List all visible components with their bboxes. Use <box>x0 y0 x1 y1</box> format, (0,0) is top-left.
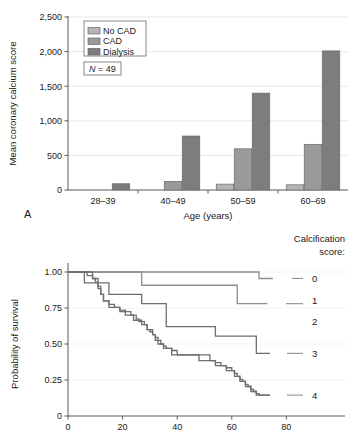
panel-a-bar <box>164 181 182 190</box>
panel-a-legend-swatch <box>88 49 100 56</box>
panel-a-letter: A <box>24 208 32 220</box>
panel-a-ytick-label: 1,500 <box>39 82 62 92</box>
panel-b-curve-label: 0 <box>312 273 317 284</box>
panel-a-ytick-label: 2,000 <box>39 47 62 57</box>
panel-a-ytick-label: 0 <box>57 185 62 195</box>
panel-a-xtick-label: 50–59 <box>230 196 255 206</box>
panel-b-ytick-label: 0.25 <box>44 375 62 385</box>
panel-b-xtick-label: 40 <box>172 422 182 432</box>
panel-a-bar <box>112 184 130 190</box>
panel-a-bar <box>182 136 200 190</box>
panel-b-legend-title-line2: score: <box>319 246 345 257</box>
panel-a-n-label: N = 49 <box>89 64 116 74</box>
panel-b-ytick-label: 0.75 <box>44 303 62 313</box>
panel-b-curve-label: 1 <box>312 295 317 306</box>
panel-b-survival-curve <box>68 272 273 278</box>
panel-a-bar <box>304 144 322 190</box>
panel-a-legend-label: CAD <box>103 36 123 46</box>
panel-b-ytick-label: 0.50 <box>44 339 62 349</box>
panel-b-ytick-label: 1.00 <box>44 267 62 277</box>
panel-a-ytick-label: 500 <box>47 151 62 161</box>
panel-b-survival-curve <box>68 272 270 395</box>
panel-a-bar <box>234 149 252 190</box>
panel-a-xtick-label: 40–49 <box>160 196 185 206</box>
panel-b-xtick-label: 80 <box>281 422 291 432</box>
panel-b-curve-label: 4 <box>312 390 317 401</box>
panel-a-x-axis-title: Age (years) <box>183 210 232 221</box>
panel-a-xtick-label: 28–39 <box>90 196 115 206</box>
panel-a-bar <box>252 93 270 190</box>
panel-b-xtick-label: 60 <box>227 422 237 432</box>
panel-b-legend-title-line1: Calcification <box>294 233 345 244</box>
panel-a-legend-swatch <box>88 28 100 35</box>
figure-container: 05001,0001,5002,0002,50028–3940–4950–596… <box>0 0 354 444</box>
panel-b-curve-label: 2 <box>312 316 317 327</box>
panel-a-xtick-label: 60–69 <box>300 196 325 206</box>
panel-a-bar <box>322 51 340 190</box>
panel-a-ytick-label: 2,500 <box>39 12 62 22</box>
panel-b-curve-label: 3 <box>312 348 317 359</box>
panel-b-ytick-label: 0 <box>57 411 62 421</box>
panel-a-legend-swatch <box>88 38 100 45</box>
panel-a-ytick-label: 1,000 <box>39 116 62 126</box>
panel-b-xtick-label: 0 <box>65 422 70 432</box>
panel-a-legend-label: No CAD <box>103 26 137 36</box>
panel-a-bar <box>216 184 234 190</box>
panel-a-bar <box>286 185 304 190</box>
panel-b-survival-chart: 00.250.500.751.00020406080Probability of… <box>0 230 354 444</box>
panel-b-y-axis-title: Probability of survival <box>9 299 20 389</box>
panel-b-xtick-label: 20 <box>118 422 128 432</box>
panel-a-y-axis-title: Mean coronary calcium score <box>7 41 18 165</box>
panel-a-legend-label: Dialysis <box>103 47 135 57</box>
panel-a-bar-chart: 05001,0001,5002,0002,50028–3940–4950–596… <box>0 0 354 240</box>
